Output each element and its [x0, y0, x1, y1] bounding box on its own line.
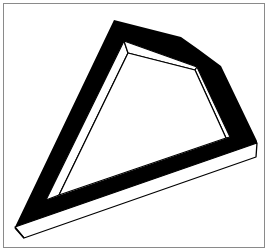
illustration-canvas: [0, 0, 270, 252]
extruded-quadrilateral-figure: [0, 0, 270, 252]
